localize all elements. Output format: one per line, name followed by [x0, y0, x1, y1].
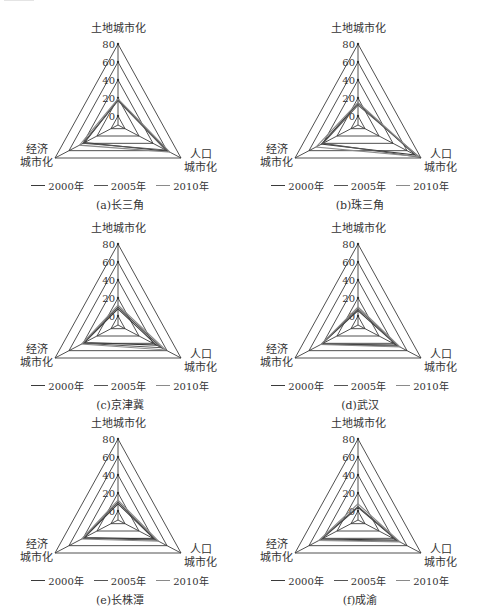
tick-label: 40	[342, 75, 355, 86]
legend-line-icon	[334, 185, 348, 186]
legend-label: 2000年	[288, 573, 323, 588]
axis-title-population-line: 城市化	[424, 361, 457, 374]
legend-line-icon	[31, 185, 45, 186]
tick-marker	[357, 61, 359, 63]
axis-title-population-line: 城市化	[424, 161, 457, 174]
legend-line-icon	[271, 185, 285, 186]
axis-title-land: 土地城市化	[91, 222, 146, 235]
legend-item: 2005年	[334, 178, 386, 193]
axis-title-population-line: 城市化	[184, 161, 217, 174]
tick-marker	[117, 474, 119, 476]
tick-label: 80	[102, 39, 115, 50]
tick-label: 40	[102, 275, 115, 286]
legend-label: 2010年	[173, 378, 208, 393]
legend-label: 2005年	[351, 178, 386, 193]
legend-item: 2005年	[334, 573, 386, 588]
legend-line-icon	[156, 185, 170, 186]
axis-title-economic: 经济城市化	[260, 143, 293, 169]
axis-title-population: 人口城市化	[184, 348, 217, 374]
tick-label: 20	[342, 293, 355, 304]
tick-marker	[357, 297, 359, 299]
legend-label: 2010年	[413, 573, 448, 588]
tick-label: 40	[342, 275, 355, 286]
legend: 2000年2005年2010年	[0, 378, 240, 393]
tick-label: 20	[102, 93, 115, 104]
legend-item: 2010年	[156, 178, 208, 193]
axis-title-land: 土地城市化	[331, 22, 386, 35]
axis-title-economic-line: 城市化	[260, 356, 293, 369]
axis-title-population-line: 城市化	[424, 556, 457, 569]
tick-marker	[357, 97, 359, 99]
tick-label: 0	[109, 111, 115, 122]
legend-label: 2010年	[413, 178, 448, 193]
axis-title-economic-line: 经济	[20, 343, 53, 356]
tick-marker	[117, 261, 119, 263]
axis-title-population: 人口城市化	[424, 148, 457, 174]
tick-marker	[357, 492, 359, 494]
axis-title-economic: 经济城市化	[260, 538, 293, 564]
tick-marker	[117, 79, 119, 81]
tick-label: 60	[102, 257, 115, 268]
tick-marker	[357, 279, 359, 281]
legend-line-icon	[271, 385, 285, 386]
tick-marker	[117, 492, 119, 494]
tick-marker	[357, 315, 359, 317]
axis-title-population-line: 城市化	[184, 361, 217, 374]
legend-label: 2010年	[413, 378, 448, 393]
panel-caption: (f)成渝	[240, 591, 479, 607]
tick-label: 60	[342, 452, 355, 463]
legend-label: 2005年	[111, 178, 146, 193]
tick-label: 40	[102, 75, 115, 86]
tick-label: 80	[342, 39, 355, 50]
legend-line-icon	[396, 185, 410, 186]
legend-item: 2005年	[334, 378, 386, 393]
tick-marker	[357, 43, 359, 45]
axis-title-population-line: 城市化	[184, 556, 217, 569]
tick-label: 60	[342, 57, 355, 68]
tick-label: 80	[342, 239, 355, 250]
axis-title-economic-line: 城市化	[20, 356, 53, 369]
legend-item: 2005年	[94, 178, 146, 193]
tick-marker	[357, 261, 359, 263]
legend-line-icon	[31, 385, 45, 386]
legend-label: 2000年	[48, 573, 83, 588]
axis-title-land: 土地城市化	[91, 417, 146, 430]
axis-title-economic: 经济城市化	[20, 343, 53, 369]
tick-marker	[117, 438, 119, 440]
axis-title-economic-line: 城市化	[20, 551, 53, 564]
tick-label: 80	[102, 434, 115, 445]
tick-marker	[117, 115, 119, 117]
legend-line-icon	[94, 185, 108, 186]
legend-line-icon	[156, 580, 170, 581]
axis-title-land-line: 土地城市化	[331, 417, 386, 430]
tick-marker	[117, 243, 119, 245]
tick-label: 60	[102, 452, 115, 463]
axis-title-land: 土地城市化	[91, 22, 146, 35]
legend-label: 2005年	[111, 573, 146, 588]
axis-title-population-line: 人口	[184, 148, 217, 161]
axis-title-population: 人口城市化	[184, 148, 217, 174]
legend-item: 2010年	[396, 378, 448, 393]
tick-marker	[117, 61, 119, 63]
axis-title-land-line: 土地城市化	[331, 22, 386, 35]
legend-label: 2005年	[111, 378, 146, 393]
legend-label: 2000年	[48, 378, 83, 393]
legend-item: 2000年	[271, 573, 323, 588]
tick-label: 80	[102, 239, 115, 250]
axis-title-economic-line: 经济	[260, 538, 293, 551]
legend-item: 2010年	[396, 573, 448, 588]
axis-title-population-line: 人口	[424, 348, 457, 361]
radar-panel-d: 806040200土地城市化经济城市化人口城市化2000年2005年2010年(…	[240, 200, 479, 398]
tick-label: 40	[342, 470, 355, 481]
axis-title-economic-line: 经济	[260, 343, 293, 356]
axis-title-population: 人口城市化	[424, 348, 457, 374]
radar-panel-a: 806040200土地城市化经济城市化人口城市化2000年2005年2010年(…	[0, 0, 240, 198]
legend-item: 2010年	[396, 178, 448, 193]
panel-caption: (e)长株潭	[0, 591, 240, 607]
tick-label: 60	[102, 57, 115, 68]
tick-label: 20	[102, 293, 115, 304]
legend-line-icon	[271, 580, 285, 581]
legend-line-icon	[334, 580, 348, 581]
legend-label: 2010年	[173, 178, 208, 193]
